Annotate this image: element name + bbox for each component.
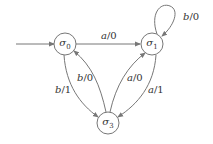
edge-output: /0	[83, 72, 93, 83]
state-s0-subscript: 0	[66, 43, 70, 51]
edge-output: /0	[189, 11, 199, 22]
edge-label-s3-s0: b/0	[77, 73, 93, 83]
edge-label-s0-s3: b/1	[55, 85, 71, 95]
state-s3-label: σ3	[96, 117, 120, 130]
edge-label-s1-s3: a/1	[148, 85, 164, 95]
edge-label-s3-s1: a/0	[127, 73, 143, 83]
state-s0-label: σ0	[53, 38, 77, 51]
edge-output: /0	[107, 30, 117, 41]
state-s1-label: σ1	[140, 38, 164, 51]
edge-label-s1-loop: b/0	[183, 12, 199, 22]
state-s3-subscript: 3	[109, 122, 113, 130]
edge-output: /0	[133, 72, 143, 83]
state-s1-subscript: 1	[153, 43, 157, 51]
edge-output: /1	[154, 84, 164, 95]
state-diagram: σ0 σ1 σ3 a/0 b/0 b/1 b/0 a/0 a/1	[0, 0, 213, 144]
edge-output: /1	[61, 84, 71, 95]
edge-label-s0-s1: a/0	[101, 31, 117, 41]
edge-s1-loop	[155, 5, 175, 36]
